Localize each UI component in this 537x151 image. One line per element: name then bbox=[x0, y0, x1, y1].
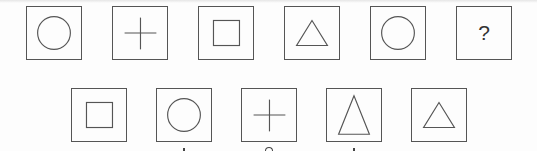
triangle-icon bbox=[285, 7, 339, 59]
label-fragment-b bbox=[183, 148, 185, 151]
option-a[interactable] bbox=[71, 88, 127, 142]
square-icon bbox=[199, 7, 253, 59]
sequence-cell-3 bbox=[198, 6, 254, 60]
plus-icon bbox=[113, 7, 167, 59]
tall-triangle-icon bbox=[327, 89, 381, 141]
option-d[interactable] bbox=[326, 88, 382, 142]
question-mark: ? bbox=[457, 7, 511, 59]
triangle-icon bbox=[412, 89, 466, 141]
plus-icon bbox=[242, 89, 296, 141]
sequence-cell-1 bbox=[26, 6, 82, 60]
sequence-cell-2 bbox=[112, 6, 168, 60]
sequence-cell-6: ? bbox=[456, 6, 512, 60]
square-icon bbox=[72, 89, 126, 141]
option-c[interactable] bbox=[241, 88, 297, 142]
label-fragment-c bbox=[265, 147, 273, 151]
circle-icon bbox=[157, 89, 211, 141]
label-fragment-d bbox=[353, 148, 355, 151]
sequence-cell-5 bbox=[370, 6, 426, 60]
top-shade bbox=[0, 0, 537, 3]
option-e[interactable] bbox=[411, 88, 467, 142]
circle-icon bbox=[27, 7, 81, 59]
sequence-cell-4 bbox=[284, 6, 340, 60]
option-b[interactable] bbox=[156, 88, 212, 142]
circle-icon bbox=[371, 7, 425, 59]
